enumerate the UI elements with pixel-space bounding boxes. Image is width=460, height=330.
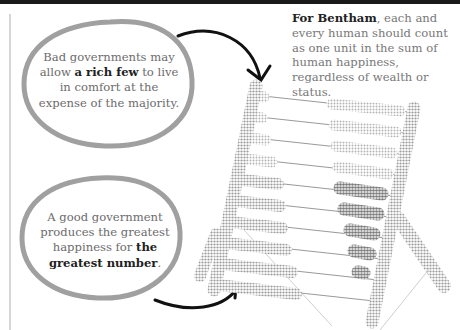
bubble-bad-government: Bad governments may allow a rich few to … xyxy=(34,50,184,111)
bentham-quote: For Bentham, each and every human should… xyxy=(292,11,460,100)
quote-emphasis: For Bentham xyxy=(292,11,377,25)
bubble-emphasis: a rich few xyxy=(75,65,139,79)
bubble-text: . xyxy=(157,256,161,270)
bubble-good-government: A good government produces the greatest … xyxy=(36,210,174,271)
